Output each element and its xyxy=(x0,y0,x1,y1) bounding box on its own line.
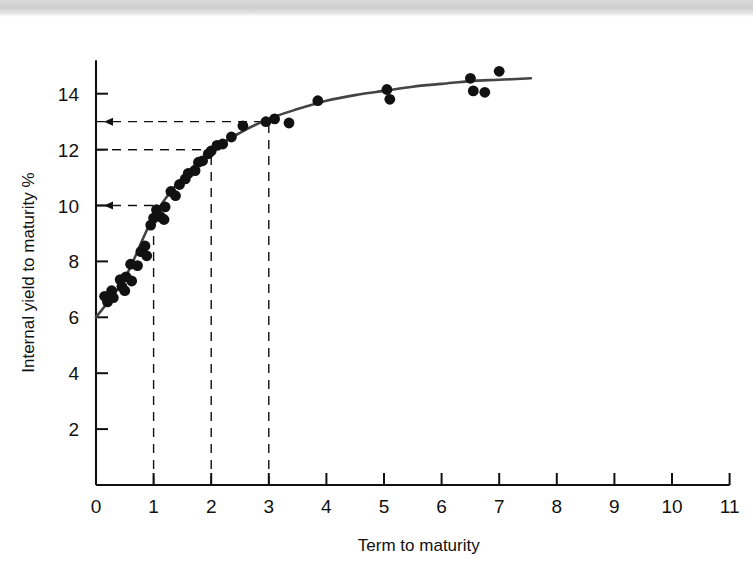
y-tick-label: 10 xyxy=(58,196,79,217)
x-tick-label: 8 xyxy=(552,496,563,517)
y-axis-title: Internal yield to maturity % xyxy=(19,172,38,372)
x-tick-label: 2 xyxy=(206,496,217,517)
fitted-yield-curve xyxy=(96,78,531,317)
y-tick-label: 2 xyxy=(68,419,79,440)
reference-arrowhead-ref-13 xyxy=(104,118,113,126)
x-tick-label: 9 xyxy=(609,496,620,517)
data-point xyxy=(217,139,228,150)
y-tick-label: 6 xyxy=(68,307,79,328)
reference-lines-group xyxy=(96,118,269,485)
data-point xyxy=(382,84,393,95)
data-point xyxy=(238,120,249,131)
x-tick-label: 10 xyxy=(661,496,682,517)
data-point xyxy=(226,132,237,143)
x-tick-label: 7 xyxy=(494,496,505,517)
plot-canvas: 246810121401234567891011Term to maturity… xyxy=(0,0,753,570)
data-point xyxy=(119,285,130,296)
data-point xyxy=(108,292,119,303)
data-point xyxy=(284,118,295,129)
data-point xyxy=(269,114,280,125)
y-tick-label: 14 xyxy=(58,84,80,105)
x-tick-label: 4 xyxy=(321,496,332,517)
data-point xyxy=(141,250,152,261)
x-tick-label: 0 xyxy=(91,496,102,517)
x-tick-label: 1 xyxy=(148,496,159,517)
data-point xyxy=(170,190,181,201)
y-tick-label: 4 xyxy=(68,363,79,384)
data-point xyxy=(465,73,476,84)
x-tick-label: 3 xyxy=(264,496,275,517)
x-tick-label: 11 xyxy=(720,496,740,517)
data-point xyxy=(160,202,171,213)
y-tick-label: 12 xyxy=(58,140,79,161)
x-axis-title: Term to maturity xyxy=(358,536,480,555)
data-point xyxy=(479,87,490,98)
data-point xyxy=(132,260,143,271)
data-point xyxy=(312,95,323,106)
data-point xyxy=(384,94,395,105)
y-axis-ticks: 2468101214 xyxy=(58,84,108,440)
data-points-group xyxy=(99,66,504,307)
data-point xyxy=(468,86,479,97)
data-point xyxy=(159,214,170,225)
x-tick-label: 6 xyxy=(436,496,447,517)
axes-group xyxy=(96,60,730,485)
x-tick-label: 5 xyxy=(379,496,390,517)
data-point xyxy=(494,66,505,77)
y-tick-label: 8 xyxy=(68,251,79,272)
x-axis-ticks: 01234567891011 xyxy=(91,473,740,517)
data-point xyxy=(140,241,151,252)
reference-arrowhead-ref-10 xyxy=(104,202,113,210)
yield-curve-chart: 246810121401234567891011Term to maturity… xyxy=(0,0,753,570)
data-point xyxy=(126,276,137,287)
